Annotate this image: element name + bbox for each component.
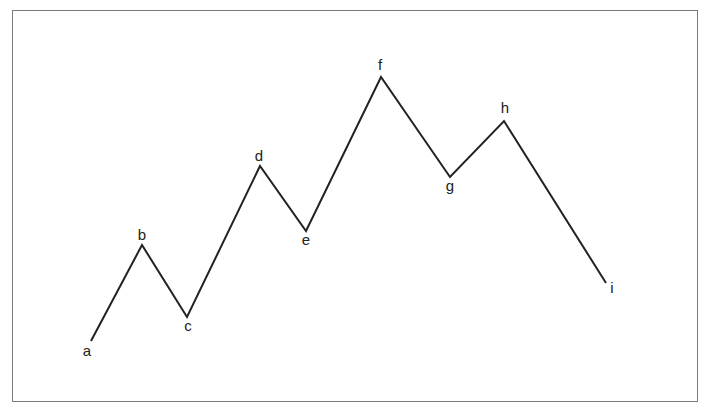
point-label-f: f xyxy=(378,56,383,73)
point-label-a: a xyxy=(83,342,92,359)
point-labels: abcdefghi xyxy=(83,56,614,359)
point-label-d: d xyxy=(255,147,263,164)
point-label-i: i xyxy=(610,279,613,296)
wave-diagram: abcdefghi xyxy=(0,0,713,412)
point-label-b: b xyxy=(138,226,146,243)
point-label-c: c xyxy=(184,317,192,334)
point-label-h: h xyxy=(501,99,509,116)
wave-line xyxy=(91,77,606,341)
point-label-g: g xyxy=(446,177,454,194)
point-label-e: e xyxy=(302,231,310,248)
